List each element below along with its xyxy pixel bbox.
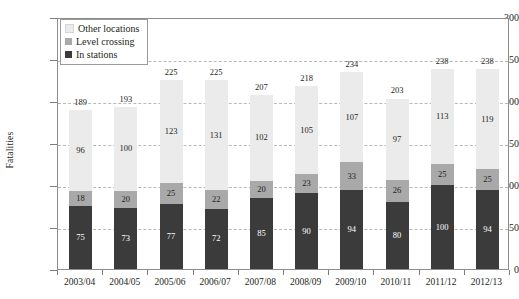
x-axis-tick-label: 2010/11 — [373, 277, 418, 288]
bar-segment-other-locations[interactable]: 119 — [476, 69, 499, 169]
x-axis-tick-mark — [238, 270, 239, 275]
bar-group[interactable]: 9023105218 — [295, 17, 318, 269]
y-axis-tick-mark — [50, 144, 57, 145]
bar-total-label: 207 — [255, 83, 268, 92]
x-axis-tick-mark — [509, 270, 510, 275]
y-axis-tick-mark — [50, 102, 57, 103]
bar-segment-other-locations[interactable]: 131 — [205, 80, 228, 190]
bar-segment-other-locations[interactable]: 123 — [160, 80, 183, 183]
bar-total-label: 203 — [391, 86, 404, 95]
bar-segment-other-locations[interactable]: 105 — [295, 86, 318, 174]
bar-segment-in-stations[interactable]: 85 — [250, 198, 273, 269]
legend-item-label: Level crossing — [76, 36, 135, 47]
bar-total-label: 238 — [436, 57, 449, 66]
bar-segment-in-stations[interactable]: 72 — [205, 209, 228, 269]
legend-item-label: Other locations — [78, 23, 139, 34]
x-axis-tick-label: 2007/08 — [238, 277, 283, 288]
bar-group[interactable]: 7725123225 — [160, 17, 183, 269]
segment-value-label: 75 — [76, 233, 85, 242]
segment-value-label: 25 — [167, 189, 176, 198]
segment-value-label: 33 — [348, 172, 357, 181]
bar-segment-level-crossing[interactable]: 25 — [476, 169, 499, 190]
segment-value-label: 25 — [438, 170, 447, 179]
x-axis-tick-mark — [419, 270, 420, 275]
x-axis-tick-label: 2004/05 — [102, 277, 147, 288]
bar-segment-level-crossing[interactable]: 25 — [160, 183, 183, 204]
legend-item[interactable]: In stations — [65, 48, 139, 61]
bar-segment-in-stations[interactable]: 94 — [340, 190, 363, 269]
bar-segment-other-locations[interactable]: 100 — [114, 107, 137, 191]
x-axis-tick-label: 2008/09 — [283, 277, 328, 288]
segment-value-label: 107 — [345, 113, 358, 122]
bar-segment-in-stations[interactable]: 77 — [160, 204, 183, 269]
stacked-bar-chart: Fatalities 050100150200250300 7518961897… — [0, 0, 519, 299]
bar-segment-in-stations[interactable]: 73 — [114, 208, 137, 269]
bar-group[interactable]: 802697203 — [386, 17, 409, 269]
legend-swatch-icon — [65, 24, 74, 33]
x-axis-tick-label: 2003/04 — [57, 277, 102, 288]
bar-segment-other-locations[interactable]: 96 — [69, 110, 92, 191]
bar-group[interactable]: 9425119238 — [476, 17, 499, 269]
segment-value-label: 77 — [167, 232, 176, 241]
x-axis-tick-mark — [193, 270, 194, 275]
x-axis-tick-mark — [328, 270, 329, 275]
segment-value-label: 73 — [122, 234, 131, 243]
y-axis-tick-mark — [50, 186, 57, 187]
bar-segment-level-crossing[interactable]: 18 — [69, 191, 92, 206]
segment-value-label: 113 — [436, 112, 448, 121]
bar-segment-other-locations[interactable]: 97 — [386, 99, 409, 180]
x-axis-tick-mark — [373, 270, 374, 275]
y-axis-tick-mark — [50, 228, 57, 229]
bar-segment-level-crossing[interactable]: 23 — [295, 174, 318, 193]
x-axis-tick-label: 2011/12 — [419, 277, 464, 288]
y-axis-tick-mark — [50, 60, 57, 61]
x-axis-tick-mark — [147, 270, 148, 275]
segment-value-label: 20 — [257, 185, 266, 194]
segment-value-label: 26 — [393, 186, 402, 195]
segment-value-label: 100 — [119, 144, 132, 153]
bar-group[interactable]: 10025113238 — [431, 17, 454, 269]
bar-total-label: 238 — [481, 57, 494, 66]
bar-group[interactable]: 8520102207 — [250, 17, 273, 269]
legend-swatch-icon — [65, 38, 72, 45]
segment-value-label: 20 — [122, 195, 131, 204]
segment-value-label: 90 — [302, 227, 311, 236]
bar-segment-level-crossing[interactable]: 20 — [250, 181, 273, 198]
bar-group[interactable]: 9433107234 — [340, 17, 363, 269]
bar-segment-other-locations[interactable]: 107 — [340, 72, 363, 162]
bar-segment-other-locations[interactable]: 102 — [250, 95, 273, 181]
x-axis-tick-label: 2006/07 — [193, 277, 238, 288]
bar-segment-in-stations[interactable]: 100 — [431, 185, 454, 269]
segment-value-label: 80 — [393, 231, 402, 240]
segment-value-label: 18 — [76, 194, 85, 203]
legend-item[interactable]: Other locations — [65, 22, 139, 35]
segment-value-label: 94 — [348, 225, 357, 234]
x-axis-tick-label: 2012/13 — [464, 277, 509, 288]
bar-segment-in-stations[interactable]: 80 — [386, 202, 409, 269]
legend-item[interactable]: Level crossing — [65, 35, 139, 48]
bar-segment-in-stations[interactable]: 94 — [476, 190, 499, 269]
bar-segment-other-locations[interactable]: 113 — [431, 69, 454, 164]
segment-value-label: 85 — [257, 229, 266, 238]
bar-segment-in-stations[interactable]: 75 — [69, 206, 92, 269]
bar-segment-level-crossing[interactable]: 20 — [114, 191, 137, 208]
segment-value-label: 105 — [300, 126, 313, 135]
bar-segment-in-stations[interactable]: 90 — [295, 193, 318, 269]
segment-value-label: 123 — [165, 127, 178, 136]
x-axis-tick-mark — [283, 270, 284, 275]
x-axis-tick-mark — [102, 270, 103, 275]
x-axis-tick-mark — [57, 270, 58, 275]
bar-segment-level-crossing[interactable]: 25 — [431, 164, 454, 185]
segment-value-label: 97 — [393, 135, 402, 144]
bar-segment-level-crossing[interactable]: 26 — [386, 180, 409, 202]
bar-segment-level-crossing[interactable]: 22 — [205, 190, 228, 208]
y-axis-tick-mark — [50, 270, 57, 271]
bar-segment-level-crossing[interactable]: 33 — [340, 162, 363, 190]
y-axis-tick-mark — [50, 18, 57, 19]
segment-value-label: 25 — [483, 175, 492, 184]
bar-total-label: 234 — [345, 60, 358, 69]
segment-value-label: 131 — [210, 131, 223, 140]
bar-group[interactable]: 7222131225 — [205, 17, 228, 269]
segment-value-label: 96 — [76, 146, 85, 155]
segment-value-label: 22 — [212, 195, 221, 204]
